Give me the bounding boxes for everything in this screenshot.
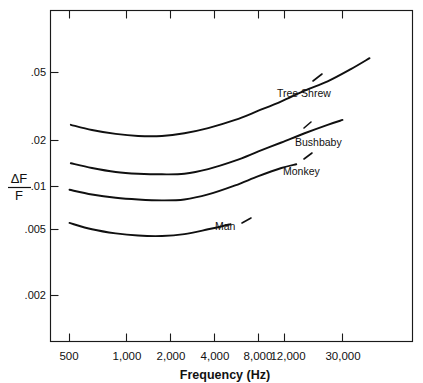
x-tick-label: 1,000 — [113, 350, 142, 362]
y-axis-title: ΔF F — [8, 171, 31, 203]
x-tick-label: 12,000 — [270, 350, 305, 362]
x-tick-label: 8,000 — [244, 350, 273, 362]
curve-man — [70, 223, 231, 236]
x-tick-label: 4,000 — [201, 350, 230, 362]
leader-bushbaby — [304, 122, 311, 128]
frequency-discrimination-chart: .05 .02 .01 .005 .002 ΔF F — [0, 0, 423, 383]
x-tick-label: 2,000 — [157, 350, 186, 362]
figure-container: .05 .02 .01 .005 .002 ΔF F — [0, 0, 423, 383]
y-tick-label: .005 — [25, 223, 46, 235]
x-axis-title: Frequency (Hz) — [180, 368, 270, 382]
y-axis-tick-labels: .05 .02 .01 .005 .002 — [25, 66, 46, 301]
x-axis-tick-labels: 500 1,000 2,000 4,000 8,000 12,000 30,00… — [59, 350, 360, 362]
y-axis-title-numerator: ΔF — [11, 171, 28, 186]
x-axis-ticks-top — [70, 11, 343, 19]
x-axis-ticks-bottom — [70, 334, 343, 342]
leader-tree-shrew — [313, 74, 322, 81]
series-label-monkey: Monkey — [283, 165, 321, 177]
plot-frame — [51, 11, 413, 342]
y-tick-label: .05 — [31, 66, 46, 78]
series-label-bushbaby: Bushbaby — [295, 136, 342, 148]
leader-monkey — [304, 153, 312, 159]
y-axis-title-denominator: F — [15, 188, 23, 203]
y-axis-ticks — [51, 73, 59, 296]
series-labels: Tree Shrew Bushbaby Monkey Man — [215, 87, 342, 232]
y-tick-label: .01 — [31, 180, 46, 192]
y-tick-label: .02 — [31, 134, 46, 146]
x-tick-label: 500 — [59, 350, 78, 362]
y-tick-label: .002 — [25, 289, 46, 301]
x-tick-label: 30,000 — [325, 350, 360, 362]
series-label-man: Man — [215, 220, 236, 232]
leader-man — [242, 218, 251, 223]
series-label-tree-shrew: Tree Shrew — [277, 87, 331, 99]
